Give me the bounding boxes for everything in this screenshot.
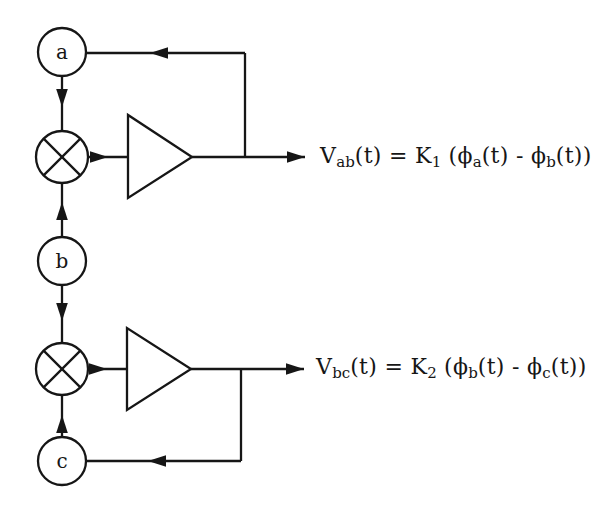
arrow-down-a-to-mixer1-icon [56, 89, 68, 107]
arrow-up-b-to-mixer1-icon [56, 202, 68, 220]
arrow-right-vbc-output-icon [286, 363, 304, 375]
equation-part: (t) = K [350, 354, 427, 379]
phase-detector-diagram: a b c [0, 0, 609, 508]
node-c-label: c [56, 449, 67, 473]
arrow-right-mixer1-output-icon [90, 151, 108, 163]
arrowheads [56, 47, 305, 467]
equation-part: (ϕ [437, 354, 468, 379]
arrow-right-mixer2-output-icon [89, 363, 107, 375]
equation-part: (t) - ϕ [478, 354, 543, 379]
equation-part: bc [332, 364, 350, 382]
equation-part: b [468, 364, 478, 382]
equation-part: b [546, 153, 556, 171]
figure-canvas: a b c Vab(t) = K1 (ϕa(t) - ϕb(t)) Vbc(t)… [0, 0, 609, 508]
equation-part: V [316, 354, 332, 379]
diagram-strokes [36, 28, 305, 485]
amplifier1-icon [128, 115, 192, 198]
node-b-label: b [56, 249, 69, 273]
equation-part: (ϕ [441, 143, 472, 168]
mixer2-icon [36, 343, 88, 395]
equation-part: (t)) [551, 354, 587, 379]
equation-part: a [473, 153, 482, 171]
equation-part: 2 [427, 364, 437, 382]
equation-part: (t)) [556, 143, 592, 168]
equation-part: 1 [432, 153, 442, 171]
arrow-down-b-to-mixer2-icon [56, 303, 68, 321]
equation-part: (t) = K [355, 143, 432, 168]
equation-part: c [542, 364, 550, 382]
equation-part: (t) - ϕ [482, 143, 547, 168]
equation-vab: Vab(t) = K1 (ϕa(t) - ϕb(t)) [320, 142, 592, 170]
equation-vbc: Vbc(t) = K2 (ϕb(t) - ϕc(t)) [316, 353, 587, 381]
arrow-right-vab-output-icon [287, 151, 305, 163]
equation-part: V [320, 143, 336, 168]
arrow-up-c-to-mixer2-icon [56, 415, 68, 433]
arrow-left-feedback1-icon [150, 47, 168, 59]
node-a-label: a [56, 40, 68, 64]
amplifier2-icon [127, 328, 191, 410]
arrow-left-feedback2-icon [148, 455, 166, 467]
equation-part: ab [336, 153, 355, 171]
mixer1-icon [36, 131, 88, 183]
